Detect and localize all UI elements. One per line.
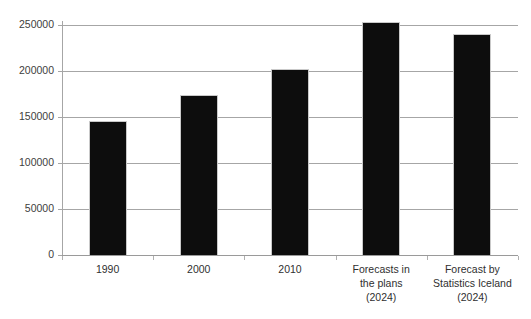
x-axis-tick-mark: [427, 256, 428, 260]
y-axis-tick-label: 0: [0, 249, 54, 260]
y-axis-tick-label: 50000: [0, 203, 54, 214]
bar: [453, 34, 491, 255]
x-axis-tick-mark: [244, 256, 245, 260]
bar: [362, 22, 400, 255]
x-axis-category-label: Forecasts in the plans (2024): [332, 262, 431, 304]
plot-area: [62, 25, 518, 255]
x-axis-category-label: 1990: [58, 262, 157, 276]
bar-chart: 050000100000150000200000250000 199020002…: [0, 0, 531, 319]
bar: [89, 121, 127, 255]
bar: [180, 95, 218, 255]
x-axis-category-label: Forecast by Statistics Iceland (2024): [423, 262, 522, 304]
x-axis-category-label: 2010: [240, 262, 339, 276]
y-axis-tick-label: 250000: [0, 19, 54, 30]
y-axis-tick-label: 150000: [0, 111, 54, 122]
x-axis-tick-mark: [518, 256, 519, 260]
x-axis-tick-mark: [336, 256, 337, 260]
gridline: [62, 255, 518, 256]
gridline: [62, 25, 518, 26]
bar: [271, 69, 309, 255]
y-axis-tick-label: 200000: [0, 65, 54, 76]
x-axis-tick-mark: [62, 256, 63, 260]
y-axis-tick-label: 100000: [0, 157, 54, 168]
x-axis-tick-mark: [153, 256, 154, 260]
x-axis-category-label: 2000: [149, 262, 248, 276]
